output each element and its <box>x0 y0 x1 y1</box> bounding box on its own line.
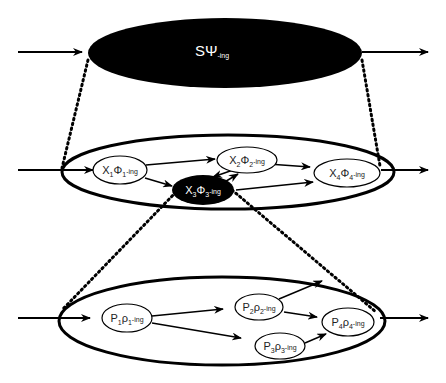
system-level: SΨ-ing <box>18 18 428 88</box>
node-x2: X2Φ2-ing <box>217 147 277 173</box>
node-x4: X4Φ4-ing <box>314 159 380 187</box>
node-p3: P3ρ3-ing <box>255 333 305 359</box>
node-x3: X3Φ3-ing <box>172 175 234 205</box>
edge-p1-p3 <box>152 323 241 338</box>
zoom-line-top-left <box>62 60 88 168</box>
edge-x3-x4 <box>236 182 313 190</box>
edge-p2-p4 <box>284 312 317 317</box>
component-level: X1Φ1-ing X2Φ2-ing X3Φ3-ing X4Φ4-ing <box>18 135 428 209</box>
edge-x1-x2 <box>146 159 215 165</box>
zoom-line-x3-left <box>62 192 176 310</box>
subcomponent-level: P1ρ1-ing P2ρ2-ing P3ρ3-ing P4ρ4-ing <box>18 277 428 365</box>
hierarchy-diagram: SΨ-ing X1Φ1-ing X2Φ2-ing X3Φ3-ing <box>0 0 446 383</box>
edge-p1-p2 <box>152 309 223 316</box>
edge-p3-p4 <box>305 334 326 343</box>
node-x1: X1Φ1-ing <box>93 156 147 184</box>
edge-x1-x3 <box>145 178 172 186</box>
node-p4: P4ρ4-ing <box>322 308 374 336</box>
node-p1: P1ρ1-ing <box>102 304 152 332</box>
node-p2: P2ρ2-ing <box>235 294 283 320</box>
